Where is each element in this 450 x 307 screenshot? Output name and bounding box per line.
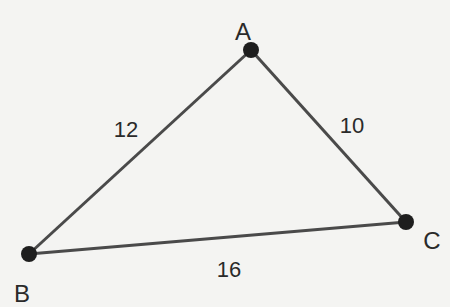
vertex-point-b	[21, 246, 37, 262]
triangle-diagram: 121016ABC	[0, 0, 450, 307]
edge-length-label: 12	[114, 117, 138, 142]
edge-length-label: 16	[217, 257, 241, 282]
vertex-label-a: A	[235, 18, 251, 45]
edge-ab	[29, 50, 251, 254]
edge-length-label: 10	[340, 113, 364, 138]
edge-bc	[29, 222, 406, 254]
vertex-label-b: B	[14, 280, 30, 307]
edge-ac	[251, 50, 406, 222]
vertex-label-c: C	[423, 227, 440, 254]
vertex-point-c	[398, 214, 414, 230]
